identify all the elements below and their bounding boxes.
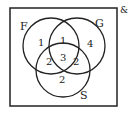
region-fg: 1 xyxy=(60,35,66,46)
region-g-only: 4 xyxy=(87,38,93,49)
region-s-only: 2 xyxy=(59,74,65,85)
label-g: G xyxy=(95,17,104,30)
venn-svg: F G S 1 1 4 2 3 2 2 xyxy=(0,0,129,113)
label-f: F xyxy=(20,20,28,33)
region-f-only: 1 xyxy=(38,37,44,48)
region-fgs: 3 xyxy=(60,52,66,63)
corner-mark: & xyxy=(120,5,128,15)
region-gs: 2 xyxy=(73,56,79,67)
region-fs: 2 xyxy=(46,56,52,67)
label-s: S xyxy=(80,89,88,102)
